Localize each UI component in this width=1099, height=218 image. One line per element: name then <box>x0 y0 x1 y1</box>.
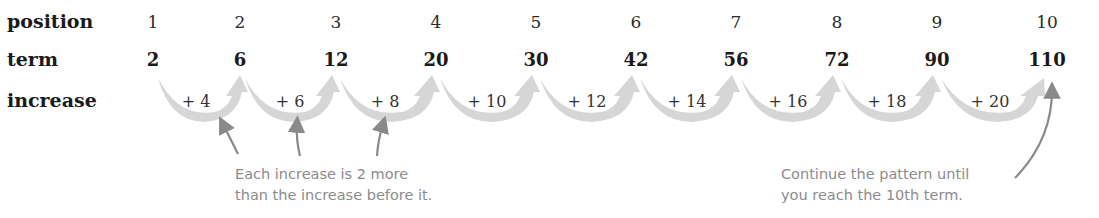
note-continue-pattern-line2: you reach the 10th term. <box>781 185 969 206</box>
increase-1: + 4 <box>182 92 211 111</box>
increase-7: + 16 <box>769 92 808 111</box>
pointer-arrow-2 <box>297 124 300 156</box>
increase-9: + 20 <box>971 92 1010 111</box>
increase-8: + 18 <box>868 92 907 111</box>
increase-4: + 10 <box>468 92 507 111</box>
pointer-arrow-1 <box>223 124 238 154</box>
increase-2: + 6 <box>276 92 305 111</box>
increase-5: + 12 <box>568 92 607 111</box>
pointer-arrow-3 <box>377 124 383 156</box>
note-increase-rule-line2: than the increase before it. <box>235 185 432 206</box>
note-continue-pattern: Continue the pattern until you reach the… <box>781 164 969 206</box>
note-increase-rule-line1: Each increase is 2 more <box>235 164 432 185</box>
increase-6: + 14 <box>668 92 707 111</box>
increase-3: + 8 <box>371 92 400 111</box>
note-increase-rule: Each increase is 2 more than the increas… <box>235 164 432 206</box>
note-continue-pattern-line1: Continue the pattern until <box>781 164 969 185</box>
